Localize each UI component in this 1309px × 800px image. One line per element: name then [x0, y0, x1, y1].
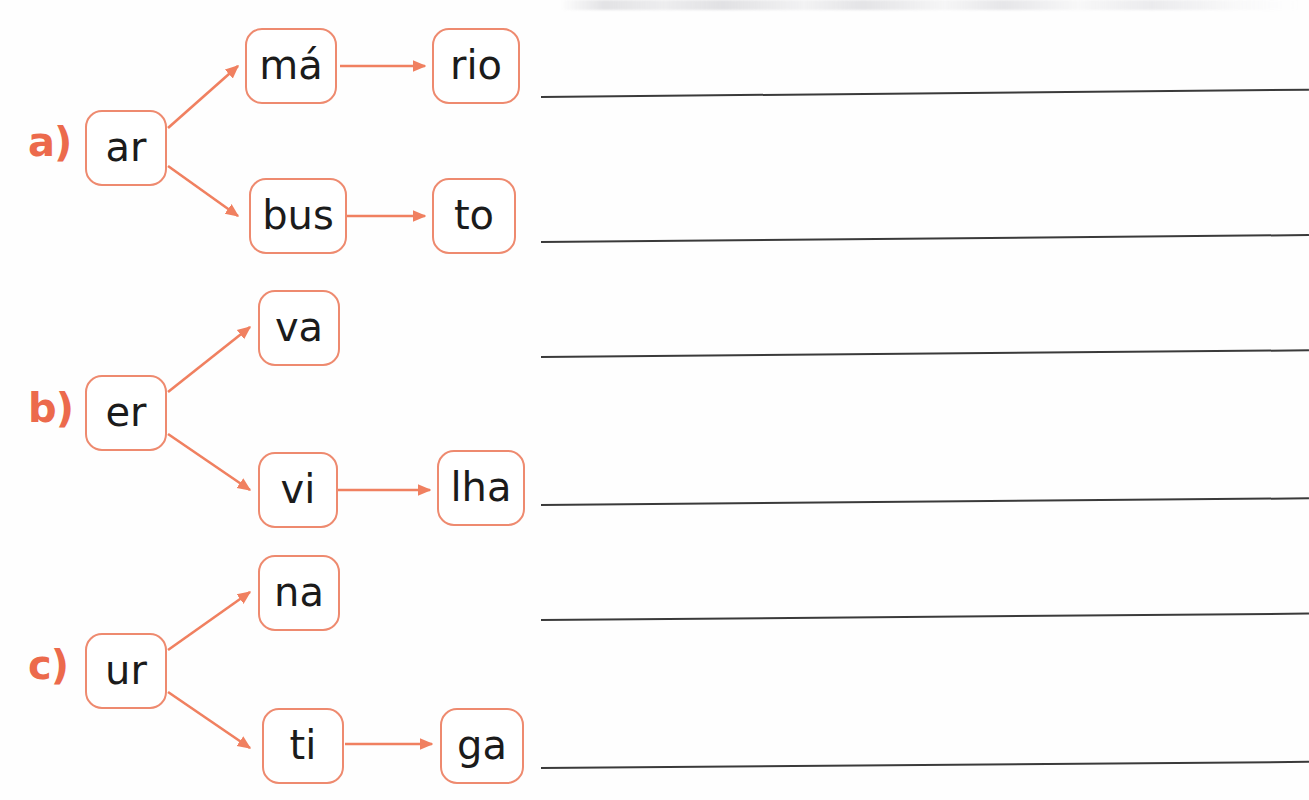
- exercise-label-b: b): [28, 388, 73, 428]
- scan-artifact-smudge: [560, 0, 1300, 10]
- arrow-c-root-to-ti: [168, 692, 250, 748]
- exercise-label-c: c): [28, 645, 68, 685]
- syllable-box-a-bus: bus: [249, 178, 347, 254]
- answer-line-a1[interactable]: [541, 89, 1309, 98]
- syllable-box-a-ma: má: [245, 28, 337, 104]
- answer-line-b1[interactable]: [541, 349, 1309, 358]
- arrow-a-root-to-ma: [168, 66, 238, 128]
- syllable-box-b-va: va: [258, 290, 340, 366]
- answer-line-c1[interactable]: [541, 613, 1309, 621]
- answer-line-a2[interactable]: [541, 234, 1309, 243]
- answer-line-b2[interactable]: [541, 497, 1309, 506]
- syllable-box-b-lha: lha: [437, 450, 525, 526]
- arrow-b-root-to-va: [168, 327, 250, 392]
- syllable-box-a-root: ar: [85, 110, 167, 186]
- arrow-a-root-to-bus: [168, 166, 238, 216]
- syllable-box-b-vi: vi: [258, 452, 338, 528]
- exercise-label-a: a): [28, 122, 71, 162]
- syllable-box-a-to: to: [432, 178, 516, 254]
- syllable-box-c-ga: ga: [440, 708, 524, 784]
- arrow-b-root-to-vi: [168, 434, 250, 490]
- syllable-box-a-rio: rio: [432, 28, 520, 104]
- arrow-c-root-to-na: [168, 592, 250, 650]
- syllable-box-c-root: ur: [85, 633, 167, 709]
- syllable-box-c-ti: ti: [262, 708, 344, 784]
- syllable-box-b-root: er: [85, 375, 167, 451]
- syllable-box-c-na: na: [258, 555, 340, 631]
- arrow-layer: [0, 0, 1309, 800]
- answer-line-c2[interactable]: [541, 761, 1309, 769]
